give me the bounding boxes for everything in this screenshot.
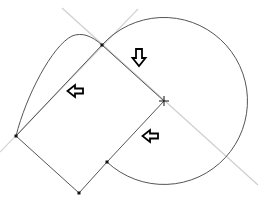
arrow-left-lower-icon (143, 130, 159, 142)
point-arc-end (106, 161, 109, 164)
construction-line-diagonal (62, 8, 258, 185)
loop-curve (16, 34, 102, 136)
point-bottom-corner (78, 192, 81, 195)
frame-polyline (16, 45, 164, 193)
point-left-corner (15, 135, 18, 138)
circle-arc (102, 17, 247, 184)
geometry-diagram (0, 0, 262, 198)
point-tangent (101, 44, 104, 47)
arrow-left-upper-icon (68, 85, 84, 97)
arrow-down-icon (133, 49, 146, 66)
